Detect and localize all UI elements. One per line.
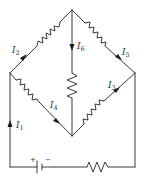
arrow-i4-icon [53,118,60,124]
resistor-bottom [87,162,108,172]
battery-minus-sign: − [45,156,51,164]
label-i6: I6 [76,41,85,53]
label-i4: I4 [49,100,58,112]
resistor-top-right [85,22,106,46]
arrow-i6-icon [70,44,75,51]
branch-middle [67,10,77,136]
branch-bottom-right [72,73,135,136]
resistor-middle [67,73,77,98]
label-i2: I2 [11,45,20,57]
label-i5: I5 [121,47,130,59]
label-i3: I3 [107,80,116,92]
circuit-diagram: + − I1 I2 I3 I4 I5 I6 [0,0,145,179]
label-i1: I1 [15,120,24,132]
resistor-bottom-right [83,100,104,124]
outer-loop [8,73,136,172]
resistor-bottom-left [16,79,39,102]
arrow-i5-icon [115,54,122,60]
branch-top-left [10,10,72,73]
battery: + − [30,156,51,173]
arrow-i1-icon [8,120,13,127]
resistor-top-left [37,22,60,46]
battery-plus-sign: + [30,156,36,164]
branch-top-right [72,10,135,73]
